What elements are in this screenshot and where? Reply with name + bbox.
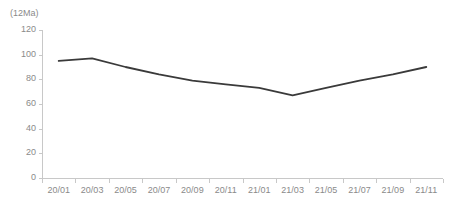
y-tick-label: 100 bbox=[12, 49, 36, 59]
y-tick-label: 120 bbox=[12, 24, 36, 34]
y-tick-label: 60 bbox=[12, 98, 36, 108]
line-chart: (12Ma) 020406080100120 20/0120/0320/0520… bbox=[0, 0, 462, 212]
y-tick-label: 80 bbox=[12, 73, 36, 83]
series-line-0 bbox=[59, 58, 427, 95]
y-tick-label: 20 bbox=[12, 147, 36, 157]
y-tick-label: 0 bbox=[12, 172, 36, 182]
y-tick-label: 40 bbox=[12, 123, 36, 133]
data-series-group bbox=[59, 58, 427, 95]
x-tick-label: 21/11 bbox=[406, 185, 446, 195]
y-axis bbox=[39, 30, 43, 179]
x-axis bbox=[42, 179, 444, 183]
chart-plot-area bbox=[0, 0, 462, 212]
